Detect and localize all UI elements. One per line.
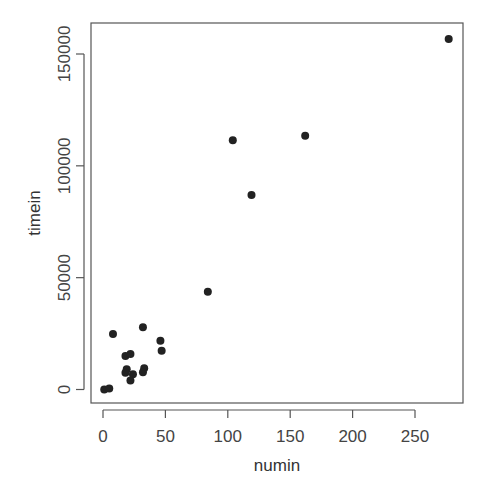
y-tick-label: 100000 <box>55 137 74 194</box>
scatter-chart: 050100150200250 050000100000150000 numin… <box>0 0 490 493</box>
x-axis-title: numin <box>254 456 300 475</box>
data-point <box>126 350 134 358</box>
data-point <box>139 323 147 331</box>
x-axis: 050100150200250 <box>98 410 429 446</box>
x-tick-label: 100 <box>214 427 242 446</box>
data-point <box>158 347 166 355</box>
data-point <box>204 288 212 296</box>
data-point <box>301 132 309 140</box>
x-tick-label: 50 <box>156 427 175 446</box>
data-point <box>121 369 129 377</box>
y-tick-label: 150000 <box>55 26 74 83</box>
x-tick-label: 200 <box>338 427 366 446</box>
data-point <box>229 136 237 144</box>
y-tick-label: 50000 <box>55 254 74 301</box>
data-point <box>105 384 113 392</box>
data-point <box>445 35 453 43</box>
x-tick-label: 0 <box>98 427 107 446</box>
plot-box <box>91 23 463 403</box>
y-tick-label: 0 <box>55 385 74 394</box>
data-point <box>248 191 256 199</box>
y-axis-title: timein <box>25 190 44 235</box>
y-axis: 050000100000150000 <box>55 26 84 395</box>
data-point <box>139 368 147 376</box>
data-point <box>109 330 117 338</box>
x-tick-label: 250 <box>401 427 429 446</box>
data-point <box>156 337 164 345</box>
x-tick-label: 150 <box>276 427 304 446</box>
data-points <box>100 35 452 393</box>
data-point <box>126 377 134 385</box>
